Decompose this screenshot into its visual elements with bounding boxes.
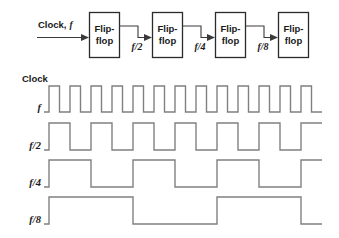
- flipflop-box-2-line2: flop: [159, 35, 177, 46]
- wire-label-f8: f/8: [257, 41, 268, 52]
- waveform-trace-f-over-8: [44, 197, 322, 224]
- waveform-label-f: f: [38, 102, 43, 113]
- wire-f4: [183, 26, 216, 41]
- wire-label-f4: f/4: [194, 41, 205, 52]
- waveform-trace-f-over-2: [44, 123, 322, 150]
- flipflop-box-1-line2: flop: [96, 35, 114, 46]
- waveform-trace-f-over-4: [44, 160, 322, 187]
- wire-label-f2: f/2: [131, 41, 142, 52]
- waveform-trace-f: [44, 86, 322, 112]
- diagram-canvas: Clock,f Flip- flop f/2 Flip- flop f/4: [0, 0, 339, 238]
- waveform-heading: Clock: [22, 73, 49, 84]
- clock-input-label: Clock,f: [38, 19, 74, 30]
- waveform-label-group: ff/2f/4f/8: [29, 102, 42, 225]
- flipflop-box-3-line2: flop: [222, 35, 240, 46]
- flipflop-box-2-line1: Flip-: [157, 23, 177, 34]
- waveform-label-f-over-8: f/8: [29, 214, 41, 225]
- waveform-label-f-over-4: f/4: [29, 177, 41, 188]
- flipflop-box-4-line1: Flip-: [283, 23, 303, 34]
- clock-input-arrow: [37, 34, 89, 41]
- flipflop-box-4-line2: flop: [285, 35, 303, 46]
- figure-frequency-divider: Clock,f Flip- flop f/2 Flip- flop f/4: [0, 0, 339, 238]
- block-diagram: Clock,f Flip- flop f/2 Flip- flop f/4: [37, 13, 309, 58]
- waveform-label-f-over-2: f/2: [29, 140, 41, 151]
- flipflop-box-3-line1: Flip-: [220, 23, 240, 34]
- wire-f8: [246, 26, 279, 41]
- wire-f2: [120, 26, 153, 41]
- flipflop-box-1-line1: Flip-: [94, 23, 114, 34]
- waveform-group: [44, 86, 322, 224]
